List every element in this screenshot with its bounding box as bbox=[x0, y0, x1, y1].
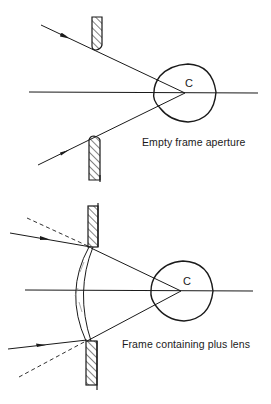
plus-lens bbox=[76, 247, 93, 341]
plus-lens-diagram bbox=[8, 203, 253, 390]
caption-empty-frame: Empty frame aperture bbox=[142, 136, 246, 148]
ray-top-incoming bbox=[10, 233, 91, 247]
arrow-icon bbox=[36, 344, 46, 348]
optical-axis bbox=[25, 290, 253, 291]
ray-bottom-incoming bbox=[8, 340, 87, 349]
arrow-icon bbox=[60, 150, 69, 156]
center-label-top: C bbox=[185, 77, 193, 89]
arrow-icon bbox=[40, 236, 50, 240]
frame-rim-bottom bbox=[86, 341, 97, 385]
center-label-bottom: C bbox=[183, 275, 191, 287]
optical-axis bbox=[29, 92, 258, 93]
empty-frame-diagram bbox=[29, 17, 258, 182]
ray-bottom bbox=[38, 93, 185, 165]
frame-rim-top bbox=[92, 17, 102, 50]
frame-rim-bottom bbox=[89, 136, 100, 180]
ray-top-refracted bbox=[91, 248, 181, 291]
frame-rim-top bbox=[88, 206, 98, 247]
arrow-icon bbox=[60, 33, 69, 39]
caption-plus-lens: Frame containing plus lens bbox=[122, 338, 250, 350]
unrefracted-ray-top bbox=[27, 218, 90, 247]
